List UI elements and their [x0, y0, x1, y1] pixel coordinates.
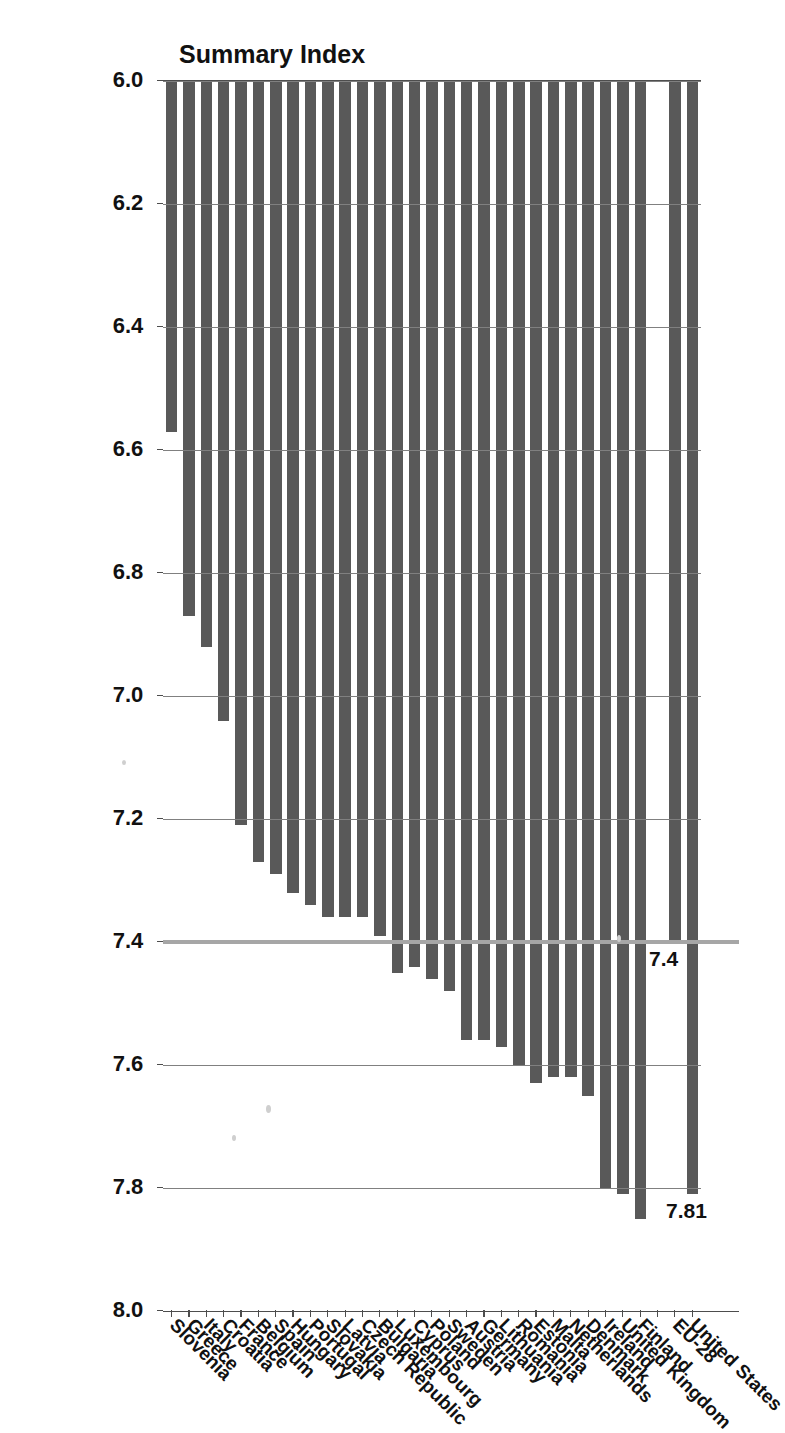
category-tick [379, 1310, 380, 1317]
category-tick [640, 1310, 641, 1317]
category-tick [535, 1310, 536, 1317]
category-tick [692, 1310, 693, 1317]
bar [340, 81, 351, 917]
bar [565, 81, 576, 1077]
bar [548, 81, 559, 1077]
value-axis-label: 8.0 [106, 1297, 150, 1323]
category-tick [310, 1310, 311, 1317]
bar [530, 81, 541, 1083]
gridline [163, 696, 701, 697]
category-tick [449, 1310, 450, 1317]
category-tick [223, 1310, 224, 1317]
bar [218, 81, 229, 721]
bar [461, 81, 472, 1040]
value-axis-label: 7.0 [106, 682, 150, 708]
chart-title: Summary Index [179, 40, 365, 69]
gridline [163, 819, 701, 820]
axis-tick [157, 449, 163, 450]
bar [357, 81, 368, 917]
bar [270, 81, 281, 874]
axis-tick [157, 1310, 163, 1311]
axis-tick [157, 326, 163, 327]
gridline [163, 1311, 739, 1312]
bar [496, 81, 507, 1047]
gridline [163, 1188, 701, 1189]
axis-tick [157, 203, 163, 204]
category-tick [188, 1310, 189, 1317]
category-tick [674, 1310, 675, 1317]
value-axis-label: 7.2 [106, 805, 150, 831]
gridline [163, 1065, 701, 1066]
reference-line-7-4 [163, 940, 739, 944]
category-tick [345, 1310, 346, 1317]
gridline [163, 81, 701, 82]
gridline [163, 327, 701, 328]
bar [635, 81, 646, 1219]
category-tick [292, 1310, 293, 1317]
category-tick [518, 1310, 519, 1317]
bar [478, 81, 489, 1040]
category-tick [258, 1310, 259, 1317]
value-axis-label: 6.8 [106, 559, 150, 585]
bar [287, 81, 298, 893]
scan-speck [617, 935, 621, 942]
category-tick [414, 1310, 415, 1317]
category-tick [657, 1310, 658, 1317]
bar [617, 81, 628, 1194]
axis-tick [157, 695, 163, 696]
gridline [163, 450, 701, 451]
scan-speck [232, 1135, 236, 1141]
category-tick [275, 1310, 276, 1317]
axis-tick [157, 572, 163, 573]
category-tick [570, 1310, 571, 1317]
bar [166, 81, 177, 432]
bar [374, 81, 385, 936]
scan-speck [266, 1105, 271, 1113]
category-tick [240, 1310, 241, 1317]
bar [669, 81, 680, 942]
scan-speck [122, 760, 126, 765]
bar [600, 81, 611, 1188]
category-tick [397, 1310, 398, 1317]
value-axis-label: 7.4 [106, 928, 150, 954]
value-axis-label: 7.6 [106, 1051, 150, 1077]
category-tick [206, 1310, 207, 1317]
category-tick [466, 1310, 467, 1317]
bar [183, 81, 194, 616]
bar-value-label: 7.4 [649, 947, 678, 971]
category-tick [622, 1310, 623, 1317]
axis-tick [157, 80, 163, 81]
category-tick [553, 1310, 554, 1317]
bar [392, 81, 403, 973]
category-tick [362, 1310, 363, 1317]
bar [201, 81, 212, 647]
category-tick [431, 1310, 432, 1317]
value-axis-label: 6.2 [106, 190, 150, 216]
value-axis-label: 6.4 [106, 313, 150, 339]
category-tick [588, 1310, 589, 1317]
axis-tick [157, 1064, 163, 1065]
bar [235, 81, 246, 825]
bar-value-label: 7.81 [666, 1199, 707, 1223]
category-tick [483, 1310, 484, 1317]
gridline [163, 204, 701, 205]
category-tick [327, 1310, 328, 1317]
axis-tick [157, 941, 163, 942]
value-axis-label: 6.0 [106, 67, 150, 93]
value-axis-label: 7.8 [106, 1174, 150, 1200]
bar [426, 81, 437, 979]
gridline [163, 573, 701, 574]
category-tick [605, 1310, 606, 1317]
bar [687, 81, 698, 1194]
bar [253, 81, 264, 862]
plot-area [163, 80, 701, 1311]
value-axis-label: 6.6 [106, 436, 150, 462]
bar [409, 81, 420, 967]
category-tick [171, 1310, 172, 1317]
bar [444, 81, 455, 991]
category-tick [501, 1310, 502, 1317]
axis-tick [157, 818, 163, 819]
bar [322, 81, 333, 917]
